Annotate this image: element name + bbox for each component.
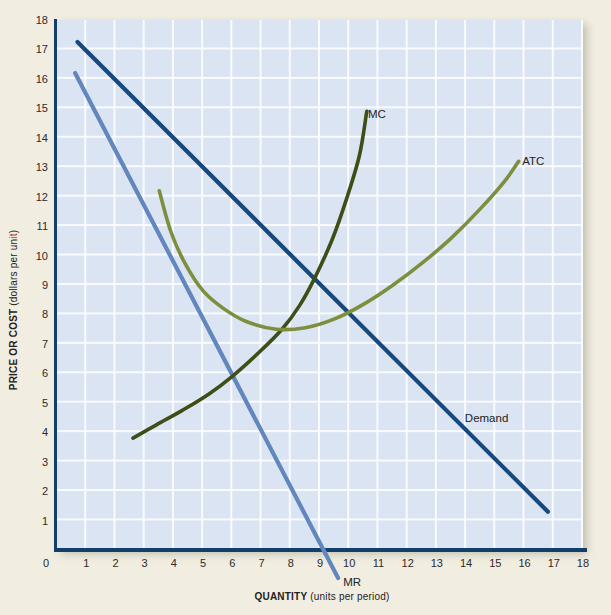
x-tick-label: 9	[317, 557, 323, 569]
x-tick-label: 3	[142, 557, 148, 569]
x-tick-label: 13	[431, 557, 443, 569]
x-tick-label: 4	[171, 557, 177, 569]
y-axis-title-red: it	[8, 233, 19, 238]
x-axis-title-bold: QUANTITY	[255, 591, 308, 602]
y-tick-label: 18	[18, 14, 48, 26]
x-tick-label: 0	[43, 557, 49, 569]
y-axis-title: PRICE OR COST (dollars per unit)	[8, 45, 24, 575]
x-tick-label: 1	[83, 557, 89, 569]
x-tick-label: 16	[518, 557, 530, 569]
x-tick-label: 15	[489, 557, 501, 569]
x-axis-title: QUANTITY (units per period)	[122, 591, 522, 602]
curve-label-mr: MR	[343, 576, 361, 588]
y-axis-title-bold: PRICE OR COST	[8, 309, 19, 391]
x-tick-label: 10	[343, 557, 355, 569]
figure-page: 123456789101112131415161718 012345678910…	[0, 0, 611, 615]
curve-label-demand: Demand	[465, 412, 508, 424]
x-tick-label: 2	[112, 557, 118, 569]
x-tick-label: 8	[288, 557, 294, 569]
y-axis-title-units: (dollars per unit)	[8, 230, 19, 306]
x-tick-label: 5	[200, 557, 206, 569]
x-tick-label: 18	[577, 557, 589, 569]
x-tick-label: 11	[373, 557, 384, 569]
x-tick-label: 7	[258, 557, 264, 569]
curve-label-mc: MC	[368, 108, 386, 120]
x-tick-label: 17	[548, 557, 560, 569]
x-axis-title-units: (units per period)	[310, 591, 389, 602]
curve-label-atc: ATC	[522, 155, 544, 167]
plot-area	[57, 20, 583, 550]
y-axis-line	[54, 19, 58, 551]
x-tick-label: 14	[460, 557, 472, 569]
x-tick-label: 12	[402, 557, 414, 569]
x-tick-label: 6	[229, 557, 235, 569]
x-axis-line	[54, 548, 587, 552]
